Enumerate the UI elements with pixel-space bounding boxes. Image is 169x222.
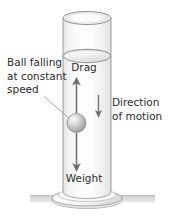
ball-callout-line-3: speed — [7, 83, 39, 95]
ball-callout-line-1: Ball falling — [7, 56, 62, 68]
direction-of-motion-label: Directionof motion — [112, 96, 162, 123]
physics-diagram-falling-ball: Ball fallingat constantspeed Drag Weight… — [0, 0, 169, 222]
falling-ball — [67, 114, 86, 133]
ball-callout-label: Ball fallingat constantspeed — [7, 56, 67, 97]
weight-label: Weight — [57, 172, 111, 186]
measuring-cylinder — [63, 12, 111, 199]
ball-callout-line-2: at constant — [7, 70, 67, 82]
direction-line-1: Direction — [112, 96, 159, 108]
direction-line-2: of motion — [112, 110, 162, 122]
drag-label: Drag — [63, 61, 105, 75]
